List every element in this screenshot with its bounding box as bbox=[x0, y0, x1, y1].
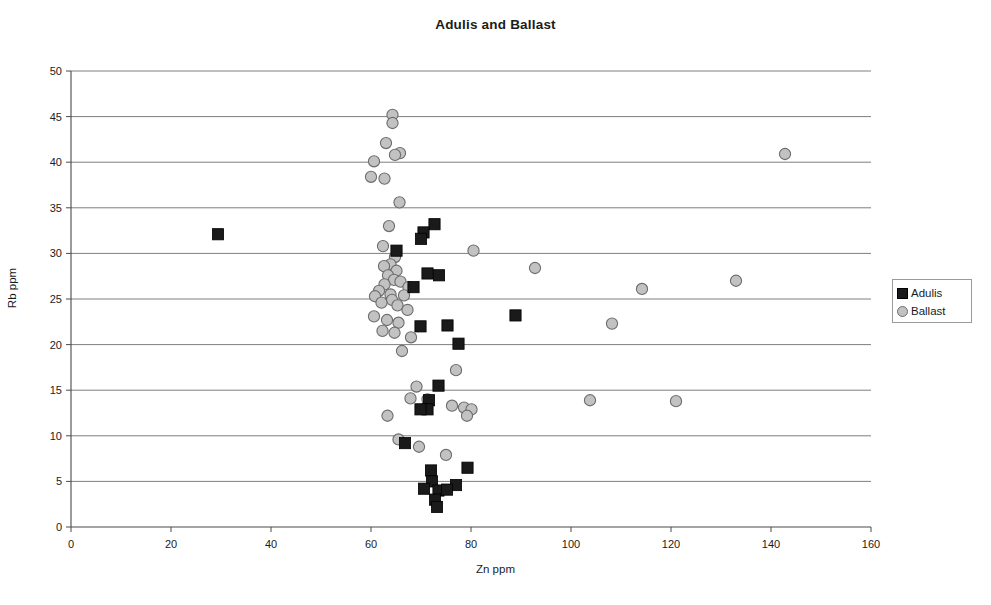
data-point bbox=[415, 404, 426, 415]
data-point bbox=[422, 268, 433, 279]
data-point bbox=[415, 233, 426, 244]
data-point bbox=[453, 338, 464, 349]
data-point bbox=[450, 365, 461, 376]
svg-text:60: 60 bbox=[365, 538, 377, 550]
legend-label-ballast: Ballast bbox=[911, 305, 946, 317]
data-point bbox=[636, 283, 647, 294]
data-point bbox=[529, 262, 540, 273]
circle-marker-icon bbox=[897, 306, 908, 317]
data-point bbox=[391, 245, 402, 256]
scatter-chart: Adulis and Ballast 020406080100120140160… bbox=[0, 0, 991, 605]
chart-legend: Adulis Ballast bbox=[892, 279, 972, 323]
data-point bbox=[415, 321, 426, 332]
svg-text:50: 50 bbox=[50, 65, 62, 77]
data-point bbox=[377, 325, 388, 336]
data-point bbox=[442, 320, 453, 331]
square-marker-icon bbox=[897, 288, 908, 299]
svg-text:10: 10 bbox=[50, 430, 62, 442]
data-point bbox=[411, 381, 422, 392]
svg-text:40: 40 bbox=[50, 156, 62, 168]
data-point bbox=[584, 395, 595, 406]
series-adulis-points bbox=[212, 219, 521, 513]
data-point bbox=[402, 304, 413, 315]
plot-area: 020406080100120140160 051015202530354045… bbox=[0, 0, 991, 605]
data-point bbox=[396, 345, 407, 356]
data-point bbox=[376, 297, 387, 308]
data-point bbox=[382, 410, 393, 421]
svg-text:160: 160 bbox=[862, 538, 880, 550]
data-point bbox=[381, 314, 392, 325]
data-point bbox=[461, 410, 472, 421]
svg-text:45: 45 bbox=[50, 111, 62, 123]
data-point bbox=[413, 441, 424, 452]
data-point bbox=[377, 241, 388, 252]
data-point bbox=[379, 173, 390, 184]
data-point bbox=[212, 229, 223, 240]
legend-item-ballast: Ballast bbox=[897, 302, 968, 320]
svg-text:20: 20 bbox=[50, 339, 62, 351]
svg-text:40: 40 bbox=[265, 538, 277, 550]
legend-item-adulis: Adulis bbox=[897, 284, 968, 302]
data-point bbox=[365, 171, 376, 182]
data-point bbox=[462, 462, 473, 473]
data-point bbox=[433, 380, 444, 391]
svg-text:80: 80 bbox=[465, 538, 477, 550]
svg-text:0: 0 bbox=[68, 538, 74, 550]
data-point bbox=[606, 318, 617, 329]
x-axis-title: Zn ppm bbox=[0, 563, 991, 575]
data-point bbox=[429, 219, 440, 230]
data-point bbox=[431, 501, 442, 512]
data-point bbox=[730, 275, 741, 286]
data-point bbox=[441, 484, 452, 495]
data-point bbox=[425, 465, 436, 476]
y-tick-labels: 05101520253035404550 bbox=[50, 65, 62, 533]
data-point bbox=[394, 197, 405, 208]
svg-text:120: 120 bbox=[662, 538, 680, 550]
data-point bbox=[510, 310, 521, 321]
data-point bbox=[440, 449, 451, 460]
data-point bbox=[380, 137, 391, 148]
svg-text:15: 15 bbox=[50, 384, 62, 396]
data-point bbox=[368, 311, 379, 322]
x-tick-labels: 020406080100120140160 bbox=[68, 538, 880, 550]
y-axis-title: Rb ppm bbox=[6, 258, 18, 318]
svg-text:25: 25 bbox=[50, 293, 62, 305]
data-point bbox=[418, 483, 429, 494]
legend-label-adulis: Adulis bbox=[911, 287, 942, 299]
svg-text:140: 140 bbox=[762, 538, 780, 550]
svg-text:20: 20 bbox=[165, 538, 177, 550]
data-point bbox=[405, 332, 416, 343]
svg-text:35: 35 bbox=[50, 202, 62, 214]
data-point bbox=[387, 117, 398, 128]
svg-text:30: 30 bbox=[50, 247, 62, 259]
data-point bbox=[399, 437, 410, 448]
data-point bbox=[670, 396, 681, 407]
svg-text:5: 5 bbox=[56, 475, 62, 487]
data-point bbox=[779, 148, 790, 159]
data-point bbox=[389, 149, 400, 160]
data-point bbox=[368, 156, 379, 167]
data-point bbox=[383, 220, 394, 231]
data-point bbox=[408, 282, 419, 293]
data-point bbox=[468, 245, 479, 256]
data-point bbox=[389, 327, 400, 338]
data-point bbox=[446, 400, 457, 411]
svg-text:0: 0 bbox=[56, 521, 62, 533]
data-point bbox=[433, 270, 444, 281]
data-point bbox=[405, 393, 416, 404]
svg-text:100: 100 bbox=[562, 538, 580, 550]
